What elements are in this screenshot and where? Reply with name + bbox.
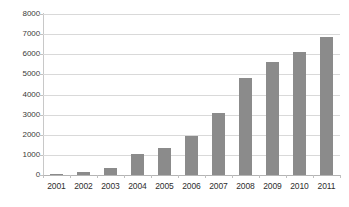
bar: [293, 52, 306, 175]
bar: [212, 113, 225, 175]
y-axis-tick-label: 3000: [4, 111, 40, 119]
x-axis-tick-labels: 2001200220032004200520062007200820092010…: [43, 182, 341, 204]
x-axis-line: [43, 175, 341, 176]
gridline: [43, 34, 340, 35]
y-axis-tick-labels: 010002000300040005000600070008000: [0, 0, 40, 207]
bar: [266, 62, 279, 175]
y-axis-tick-label: 2000: [4, 131, 40, 139]
x-axis-tick-label: 2002: [70, 182, 97, 191]
x-axis-tick-mark: [313, 175, 314, 178]
x-axis-tick-mark: [205, 175, 206, 178]
x-axis-tick-label: 2004: [124, 182, 151, 191]
x-axis-tick-mark: [286, 175, 287, 178]
x-axis-tick-label: 2003: [97, 182, 124, 191]
gridline: [43, 14, 340, 15]
x-axis-tick-label: 2006: [178, 182, 205, 191]
x-axis-tick-mark: [178, 175, 179, 178]
x-axis-tick-label: 2011: [313, 182, 340, 191]
x-axis-tick-mark: [259, 175, 260, 178]
x-axis-tick-mark: [97, 175, 98, 178]
bar: [185, 136, 198, 175]
x-axis-tick-label: 2010: [286, 182, 313, 191]
y-axis-tick-label: 4000: [4, 91, 40, 99]
bar: [320, 37, 333, 175]
bar-chart: 010002000300040005000600070008000 200120…: [0, 0, 349, 207]
plot-area: [43, 14, 340, 175]
y-axis-tick-label: 5000: [4, 70, 40, 78]
y-axis-tick-label: 7000: [4, 30, 40, 38]
x-axis-tick-mark: [151, 175, 152, 178]
bar: [104, 168, 117, 175]
x-axis-tick-mark: [43, 175, 44, 178]
bar: [131, 154, 144, 175]
y-axis-tick-label: 0: [4, 171, 40, 179]
x-axis-tick-mark: [340, 175, 341, 178]
bar: [158, 148, 171, 175]
x-axis-tick-mark: [232, 175, 233, 178]
x-axis-tick-label: 2009: [259, 182, 286, 191]
y-axis-tick-label: 6000: [4, 50, 40, 58]
bar: [239, 78, 252, 175]
x-axis-tick-label: 2008: [232, 182, 259, 191]
x-axis-tick-mark: [124, 175, 125, 178]
y-axis-tick-label: 8000: [4, 10, 40, 18]
x-axis-tick-label: 2001: [43, 182, 70, 191]
x-axis-tick-label: 2007: [205, 182, 232, 191]
x-axis-tick-label: 2005: [151, 182, 178, 191]
y-axis-tick-label: 1000: [4, 151, 40, 159]
x-axis-tick-mark: [70, 175, 71, 178]
